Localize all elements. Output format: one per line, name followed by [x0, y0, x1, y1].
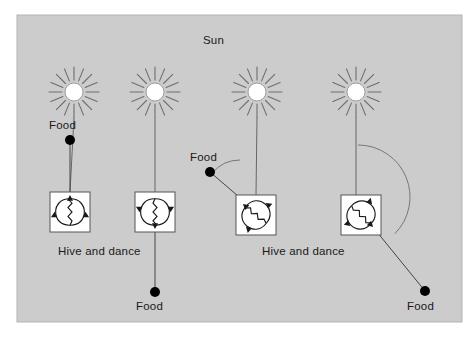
food-source-dot — [65, 135, 75, 145]
waggle-dance-figure: FoodHive and danceFoodFoodHive and dance… — [0, 0, 476, 340]
food-label-1: Food — [49, 119, 76, 131]
sun-icon — [331, 67, 381, 117]
hive-and-dance-label-3: Hive and dance — [262, 245, 345, 257]
figure-canvas — [0, 0, 476, 340]
sun-disc — [146, 83, 164, 101]
sun-disc — [347, 83, 365, 101]
hive-and-dance-label-1: Hive and dance — [58, 245, 141, 257]
sun-icon — [49, 67, 99, 117]
diagram-panel-background — [17, 15, 462, 322]
sun-disc — [248, 83, 266, 101]
sun-icon — [232, 67, 282, 117]
food-source-dot — [420, 286, 430, 296]
food-label-4: Food — [407, 300, 434, 312]
sun-icon — [130, 67, 180, 117]
sun-disc — [65, 83, 83, 101]
sun-title-label: Sun — [203, 34, 224, 46]
food-label-3: Food — [190, 151, 217, 163]
food-source-dot — [205, 167, 215, 177]
food-source-dot — [150, 287, 160, 297]
food-label-2: Food — [136, 300, 163, 312]
